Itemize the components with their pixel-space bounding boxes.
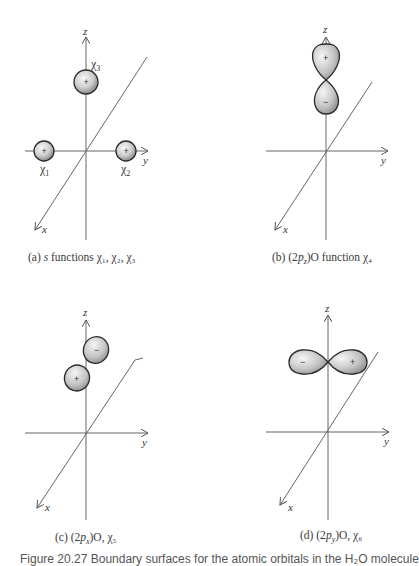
caption-text: )O, χ₆ bbox=[335, 529, 362, 541]
caption-prefix: (a) bbox=[28, 251, 44, 263]
plus-sign: + bbox=[74, 374, 79, 384]
orbital-chi2: + χ2 bbox=[116, 141, 136, 178]
panel-b-caption: (b) (2pz)O function χ₄ bbox=[272, 251, 372, 266]
x-axis bbox=[280, 352, 378, 505]
caption-prefix: (b) (2 bbox=[272, 251, 298, 263]
plus-sign: + bbox=[42, 146, 47, 156]
plus-sign: + bbox=[323, 53, 328, 63]
minus-sign: − bbox=[94, 345, 99, 355]
z-axis-label: z bbox=[82, 306, 88, 318]
minus-sign: − bbox=[323, 97, 328, 107]
minus-sign: − bbox=[300, 357, 305, 367]
caption-prefix: (d) (2 bbox=[300, 529, 326, 541]
caption-prefix: (c) (2 bbox=[55, 531, 80, 543]
x-axis-label: x bbox=[41, 223, 47, 235]
panel-d-caption: (d) (2py)O, χ₆ bbox=[300, 529, 362, 544]
panel-a-caption: (a) s functions χ₁, χ₂, χ₃ bbox=[28, 251, 136, 263]
y-axis-label: y bbox=[380, 154, 386, 166]
lobe-plus bbox=[328, 350, 367, 374]
z-axis-label: z bbox=[82, 25, 88, 37]
x-axis-label: x bbox=[282, 223, 288, 235]
y-axis-label: y bbox=[141, 436, 147, 448]
plus-sign: + bbox=[124, 146, 129, 156]
caption-text: )O function χ₄ bbox=[307, 251, 372, 263]
lobe-minus bbox=[289, 350, 328, 374]
x-axis-label: x bbox=[44, 501, 50, 513]
figure-caption: Figure 20.27 Boundary surfaces for the a… bbox=[20, 552, 419, 566]
plus-sign: + bbox=[84, 77, 89, 87]
z-axis-label: z bbox=[322, 23, 328, 35]
panel-a-axes bbox=[25, 37, 148, 240]
panel-d-axes bbox=[266, 315, 389, 520]
caption-text: functions χ₁, χ₂, χ₃ bbox=[48, 251, 135, 263]
chi1-label: χ1 bbox=[39, 162, 49, 178]
chi2-label: χ2 bbox=[120, 162, 130, 178]
y-axis-label: y bbox=[142, 154, 148, 166]
z-axis-label: z bbox=[324, 302, 330, 314]
panel-c-caption: (c) (2px)O, χ₅ bbox=[55, 531, 117, 546]
x-axis-label: x bbox=[287, 501, 293, 513]
chi3-label: χ3 bbox=[90, 57, 100, 73]
y-axis-label: y bbox=[383, 435, 389, 447]
x-axis-tip bbox=[135, 358, 143, 360]
plus-sign: + bbox=[350, 357, 355, 367]
orbital-chi4: + − bbox=[313, 44, 340, 114]
caption-text: )O, χ₅ bbox=[90, 531, 117, 543]
orbital-chi1: + χ1 bbox=[34, 141, 54, 178]
orbital-chi5: − + bbox=[61, 333, 113, 394]
orbital-chi3: + χ3 bbox=[74, 57, 100, 94]
